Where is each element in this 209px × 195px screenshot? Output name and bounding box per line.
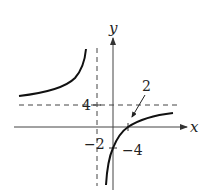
- rational-function-graph: y x 4 −2 2 −4: [0, 0, 209, 195]
- h-asymptote-label: 4: [82, 97, 91, 113]
- left-branch-curve: [19, 49, 86, 96]
- x-intercept-label: 2: [142, 78, 151, 94]
- x-axis-label: x: [190, 118, 199, 136]
- v-asymptote-label: −2: [84, 136, 105, 152]
- x-intercept-pointer-arrow: [132, 95, 145, 117]
- y-axis-label: y: [108, 19, 118, 37]
- y-intercept-label: −4: [122, 142, 143, 158]
